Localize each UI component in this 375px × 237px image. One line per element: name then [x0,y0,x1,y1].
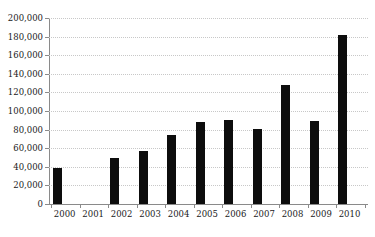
bar [196,122,205,204]
x-axis-tick [80,204,81,208]
x-axis-tick [251,204,252,208]
y-axis-label: 20,000 [0,180,43,190]
y-axis-label: 180,000 [0,32,43,42]
bar [167,135,176,204]
x-axis-tick [108,204,109,208]
y-axis-label: 100,000 [0,106,43,116]
gridline [49,185,368,186]
bar [139,151,148,204]
x-axis-tick [194,204,195,208]
gridline [49,74,368,75]
gridline [49,18,368,19]
gridline [49,37,368,38]
x-axis-label: 2010 [329,209,369,219]
x-axis-tick [336,204,337,208]
y-axis-label: 120,000 [0,87,43,97]
gridline [49,92,368,93]
y-axis-label: 40,000 [0,162,43,172]
axis-baseline [49,204,368,205]
gridline [49,148,368,149]
bar [338,35,347,204]
gridline [49,167,368,168]
y-axis-label: 0 [0,199,43,209]
bar [53,168,62,204]
bar [310,121,319,204]
gridline [49,130,368,131]
x-axis-tick [365,204,366,208]
gridline [49,55,368,56]
y-axis-label: 160,000 [0,50,43,60]
bar [281,85,290,204]
y-axis-label: 200,000 [0,13,43,23]
gridline [49,111,368,112]
x-axis-tick [279,204,280,208]
bar [224,120,233,204]
bar [110,158,119,205]
x-axis-tick [137,204,138,208]
x-axis-tick [222,204,223,208]
x-axis-tick [165,204,166,208]
y-axis-label: 80,000 [0,125,43,135]
x-axis-tick [51,204,52,208]
bar [253,129,262,204]
x-axis-tick [308,204,309,208]
y-axis-label: 60,000 [0,143,43,153]
plot-area [49,18,368,204]
bar-chart: 020,00040,00060,00080,000100,000120,0001… [0,0,375,237]
y-axis-label: 140,000 [0,69,43,79]
